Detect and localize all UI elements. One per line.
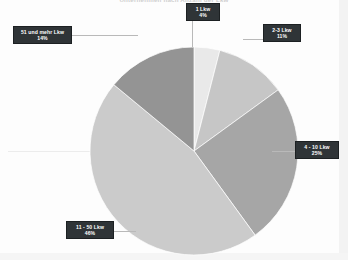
callout-percent: 4%: [190, 12, 216, 18]
pie-slice-group: [90, 47, 298, 255]
slice-callout-11-50-lkw[interactable]: 11 - 50 Lkw 46%: [66, 221, 114, 239]
leader-line-11-50lkw: [114, 231, 136, 232]
leader-line-51plus: [72, 35, 138, 36]
slice-callout-1-lkw[interactable]: 1 Lkw 4%: [186, 3, 220, 21]
callout-percent: 46%: [70, 230, 110, 236]
pie-chart-screenshot: Unternehmen nach Anzahl der Lkw 1 Lkw 4%…: [0, 0, 348, 260]
callout-percent: 11%: [267, 33, 297, 39]
slice-callout-2-3-lkw[interactable]: 2-3 Lkw 11%: [263, 24, 301, 42]
callout-label: 51 und mehr Lkw: [17, 29, 68, 35]
callout-percent: 14%: [17, 35, 68, 41]
slice-callout-51-und-mehr-lkw[interactable]: 51 und mehr Lkw 14%: [13, 26, 72, 44]
callout-percent: 25%: [299, 150, 335, 156]
leader-line-1lkw: [192, 21, 193, 47]
leader-line-2-3lkw: [243, 39, 264, 40]
callout-label: 4 - 10 Lkw: [299, 144, 335, 150]
slice-callout-4-10-lkw[interactable]: 4 - 10 Lkw 25%: [295, 141, 339, 159]
leader-line-4-10lkw: [272, 151, 296, 152]
